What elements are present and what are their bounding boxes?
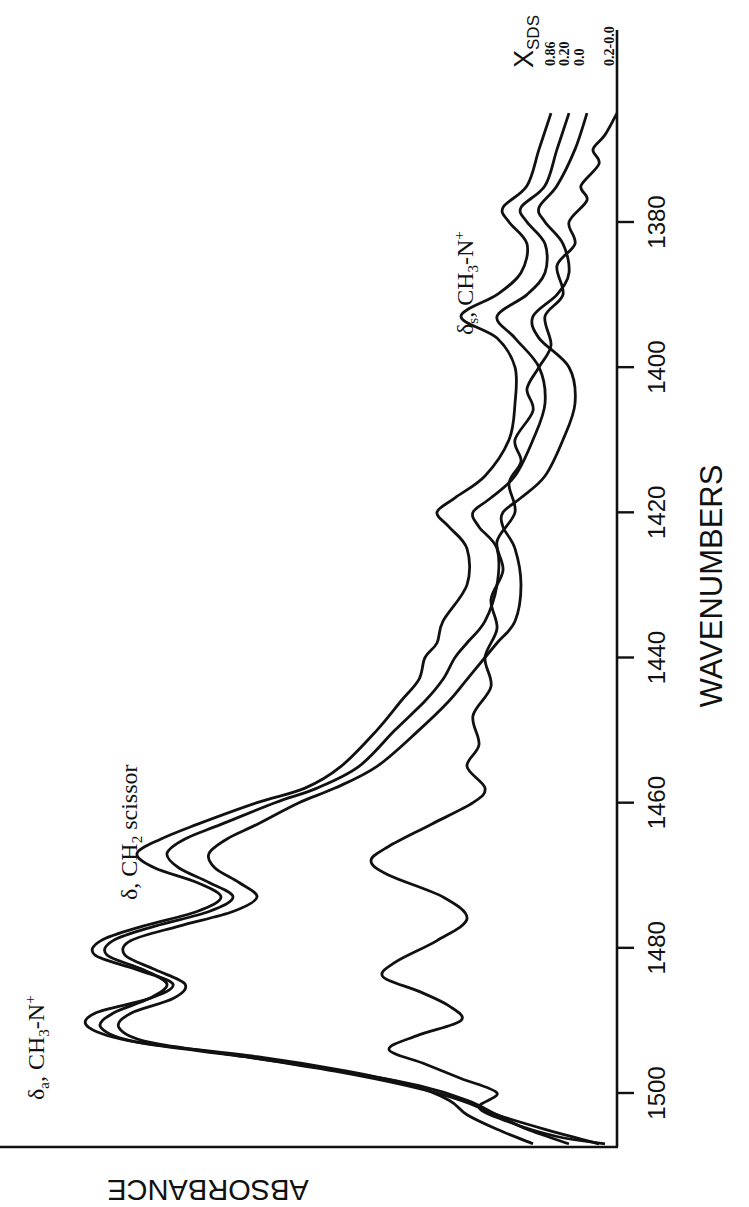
legend-label-0.86: 0.86 [543, 42, 558, 67]
tick-label-1480: 1480 [643, 921, 670, 974]
tick-label-1500: 1500 [643, 1066, 670, 1119]
legend-title: XSDS [509, 15, 543, 68]
legend-title-sub: SDS [524, 15, 543, 50]
wavenumber-ticks [617, 222, 634, 1093]
x-axis-title: WAVENUMBERS [694, 465, 729, 708]
spectrum-curve-0.2-0.0 [371, 113, 617, 1144]
spectrum-curve-0.0 [118, 113, 599, 1144]
legend-label-0.2-0.0: 0.2-0.0 [602, 26, 617, 66]
tick-label-1440: 1440 [643, 631, 670, 684]
legend-title-main: X [509, 50, 539, 68]
y-axis-title: ABSORBANCE [107, 1174, 308, 1206]
annotation-delta-ch2-scissor: δ, CH2 scissor [116, 765, 145, 901]
tick-label-1460: 1460 [643, 776, 670, 829]
wavenumber-tick-labels: 1380140014201440146014801500 [643, 195, 670, 1119]
legend-labels: 0.86 0.20 0.0 0.2-0.0 [543, 26, 617, 66]
svg-text:δs, CH3-N+: δs, CH3-N+ [451, 231, 481, 335]
svg-text:δa, CH3-N+: δa, CH3-N+ [22, 995, 52, 1100]
tick-label-1420: 1420 [643, 486, 670, 539]
tick-label-1400: 1400 [643, 340, 670, 393]
legend-label-0.0: 0.0 [572, 49, 587, 67]
svg-text:XSDS: XSDS [509, 15, 543, 68]
tick-label-1380: 1380 [643, 195, 670, 248]
svg-text:δ, CH2 scissor: δ, CH2 scissor [116, 765, 145, 901]
annotation-delta-a-ch3-n: δa, CH3-N+ [22, 995, 52, 1100]
annotation-delta-s-ch3-n: δs, CH3-N+ [451, 231, 481, 335]
ir-spectrum-figure: 1380140014201440146014801500 WAVENUMBERS… [0, 0, 749, 1207]
spectra-curves [85, 113, 617, 1144]
legend-label-0.20: 0.20 [557, 42, 572, 67]
